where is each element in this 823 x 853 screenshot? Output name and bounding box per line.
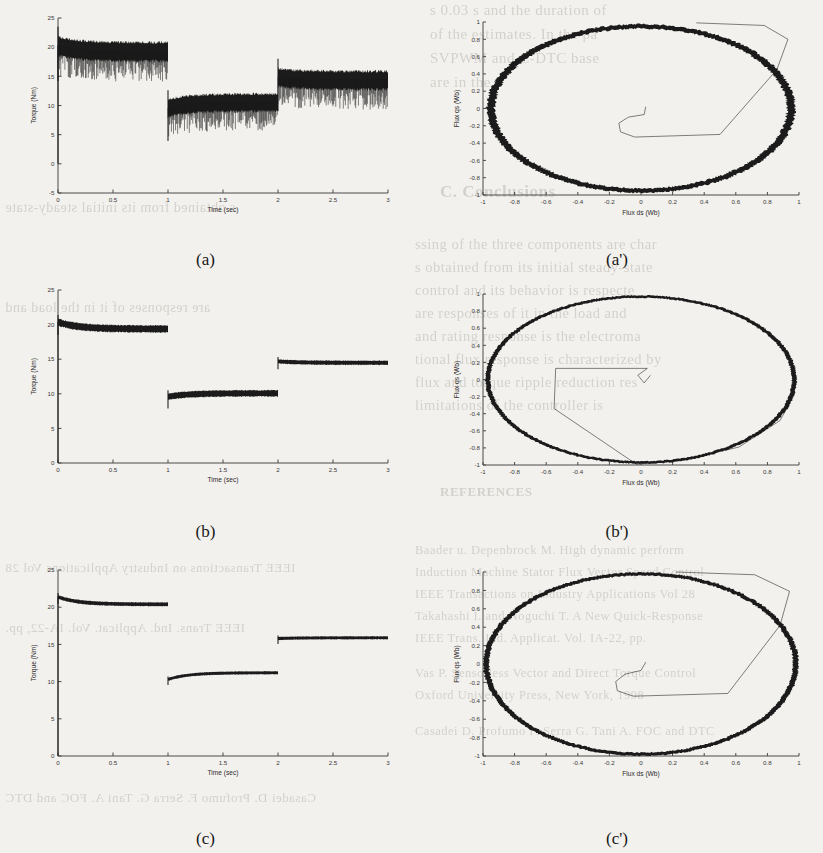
- svg-text:0.4: 0.4: [700, 198, 709, 205]
- panel-c: 051015202500.511.522.53Time (sec)Torque …: [0, 546, 411, 853]
- svg-text:0: 0: [477, 660, 481, 667]
- flux-plot-a-prime-svg: -1-0.8-0.6-0.4-0.200.20.40.60.81-1-0.8-0…: [441, 10, 813, 225]
- svg-text:0: 0: [477, 376, 481, 383]
- panel-caption-a-prime: (a'): [411, 250, 823, 270]
- torque-plot-a: -5051015202500.511.522.53Time (sec)Torqu…: [18, 8, 398, 223]
- svg-text:1: 1: [166, 196, 170, 203]
- svg-text:1: 1: [797, 759, 801, 766]
- svg-text:Flux qs (Wb): Flux qs (Wb): [453, 90, 461, 127]
- svg-text:-0.8: -0.8: [469, 444, 480, 451]
- svg-text:-0.6: -0.6: [469, 715, 480, 722]
- panel-caption-c-prime: (c'): [411, 829, 823, 849]
- svg-text:25: 25: [48, 566, 55, 573]
- svg-text:2: 2: [276, 196, 280, 203]
- svg-text:-0.8: -0.8: [509, 198, 520, 205]
- svg-text:-0.4: -0.4: [469, 410, 480, 417]
- svg-text:-0.4: -0.4: [469, 697, 480, 704]
- svg-text:3: 3: [386, 466, 390, 473]
- svg-text:-0.8: -0.8: [509, 759, 520, 766]
- svg-text:1.5: 1.5: [219, 466, 228, 473]
- svg-text:0: 0: [56, 466, 60, 473]
- svg-text:5: 5: [51, 715, 55, 722]
- svg-text:5: 5: [51, 425, 55, 432]
- svg-text:1: 1: [797, 198, 801, 205]
- svg-text:-0.4: -0.4: [572, 759, 583, 766]
- flux-plot-b-prime-svg: -1-0.8-0.6-0.4-0.200.20.40.60.81-1-0.8-0…: [441, 282, 813, 495]
- svg-text:-0.8: -0.8: [509, 468, 520, 475]
- svg-text:1: 1: [477, 568, 481, 575]
- svg-text:-0.8: -0.8: [469, 734, 480, 741]
- flux-plot-c-prime-svg: -1-0.8-0.6-0.4-0.200.20.40.60.81-1-0.8-0…: [441, 560, 813, 790]
- svg-text:0.4: 0.4: [471, 70, 480, 77]
- svg-text:0.2: 0.2: [668, 198, 677, 205]
- svg-text:0.8: 0.8: [763, 759, 772, 766]
- svg-text:0.8: 0.8: [471, 36, 480, 43]
- svg-text:-0.6: -0.6: [541, 198, 552, 205]
- svg-text:1.5: 1.5: [219, 759, 228, 766]
- svg-text:Flux qs (Wb): Flux qs (Wb): [453, 361, 461, 398]
- svg-text:1: 1: [166, 466, 170, 473]
- panel-a-prime: -1-0.8-0.6-0.4-0.200.20.40.60.81-1-0.8-0…: [411, 0, 823, 274]
- svg-text:Flux ds (Wb): Flux ds (Wb): [622, 770, 659, 778]
- svg-text:Flux qs (Wb): Flux qs (Wb): [453, 645, 461, 682]
- panel-caption-b: (b): [0, 522, 411, 542]
- svg-text:0: 0: [639, 759, 643, 766]
- flux-plot-b-prime: -1-0.8-0.6-0.4-0.200.20.40.60.81-1-0.8-0…: [441, 282, 813, 495]
- svg-text:-5: -5: [49, 189, 55, 196]
- svg-text:0.6: 0.6: [471, 324, 480, 331]
- svg-text:2: 2: [276, 759, 280, 766]
- svg-text:15: 15: [48, 73, 55, 80]
- svg-text:1: 1: [166, 759, 170, 766]
- panel-c-prime: -1-0.8-0.6-0.4-0.200.20.40.60.81-1-0.8-0…: [411, 546, 823, 853]
- svg-text:-0.4: -0.4: [572, 198, 583, 205]
- svg-text:-0.2: -0.2: [469, 679, 480, 686]
- panel-caption-a: (a): [0, 250, 411, 270]
- panel-b-prime: -1-0.8-0.6-0.4-0.200.20.40.60.81-1-0.8-0…: [411, 274, 823, 546]
- svg-text:Torque (Nm): Torque (Nm): [30, 358, 38, 395]
- svg-text:1: 1: [797, 468, 801, 475]
- svg-text:0: 0: [56, 196, 60, 203]
- svg-text:0.2: 0.2: [668, 759, 677, 766]
- svg-text:-1: -1: [480, 759, 486, 766]
- svg-text:0: 0: [51, 160, 55, 167]
- svg-text:0.8: 0.8: [471, 307, 480, 314]
- svg-text:0.6: 0.6: [471, 605, 480, 612]
- svg-text:0.4: 0.4: [471, 342, 480, 349]
- svg-text:10: 10: [48, 678, 55, 685]
- svg-text:0.5: 0.5: [109, 759, 118, 766]
- svg-text:0.4: 0.4: [700, 759, 709, 766]
- svg-text:0: 0: [56, 759, 60, 766]
- svg-text:0.2: 0.2: [471, 87, 480, 94]
- svg-text:0.2: 0.2: [668, 468, 677, 475]
- svg-text:2.5: 2.5: [329, 196, 338, 203]
- svg-text:-0.4: -0.4: [469, 139, 480, 146]
- svg-text:20: 20: [48, 43, 55, 50]
- svg-text:-0.6: -0.6: [469, 157, 480, 164]
- torque-plot-c: 051015202500.511.522.53Time (sec)Torque …: [18, 558, 398, 790]
- svg-text:15: 15: [48, 355, 55, 362]
- svg-text:25: 25: [48, 286, 55, 293]
- svg-text:-0.4: -0.4: [572, 468, 583, 475]
- svg-text:0.8: 0.8: [471, 587, 480, 594]
- svg-text:0.6: 0.6: [471, 53, 480, 60]
- svg-text:0.4: 0.4: [700, 468, 709, 475]
- svg-text:-0.2: -0.2: [469, 122, 480, 129]
- panel-caption-b-prime: (b'): [411, 522, 823, 542]
- svg-text:-1: -1: [480, 198, 486, 205]
- svg-text:-0.6: -0.6: [541, 468, 552, 475]
- svg-text:-0.2: -0.2: [469, 393, 480, 400]
- svg-text:Time (sec): Time (sec): [208, 476, 239, 484]
- svg-text:Flux ds (Wb): Flux ds (Wb): [622, 209, 659, 217]
- svg-text:Time (sec): Time (sec): [208, 206, 239, 214]
- svg-text:2: 2: [276, 466, 280, 473]
- svg-text:0.6: 0.6: [731, 759, 740, 766]
- svg-text:3: 3: [386, 196, 390, 203]
- svg-text:0.5: 0.5: [109, 196, 118, 203]
- svg-text:-0.2: -0.2: [604, 759, 615, 766]
- svg-text:Flux ds (Wb): Flux ds (Wb): [622, 479, 659, 487]
- svg-text:0.8: 0.8: [763, 198, 772, 205]
- svg-text:20: 20: [48, 603, 55, 610]
- svg-text:25: 25: [48, 14, 55, 21]
- svg-text:Torque (Nm): Torque (Nm): [30, 87, 38, 124]
- svg-text:1: 1: [477, 18, 481, 25]
